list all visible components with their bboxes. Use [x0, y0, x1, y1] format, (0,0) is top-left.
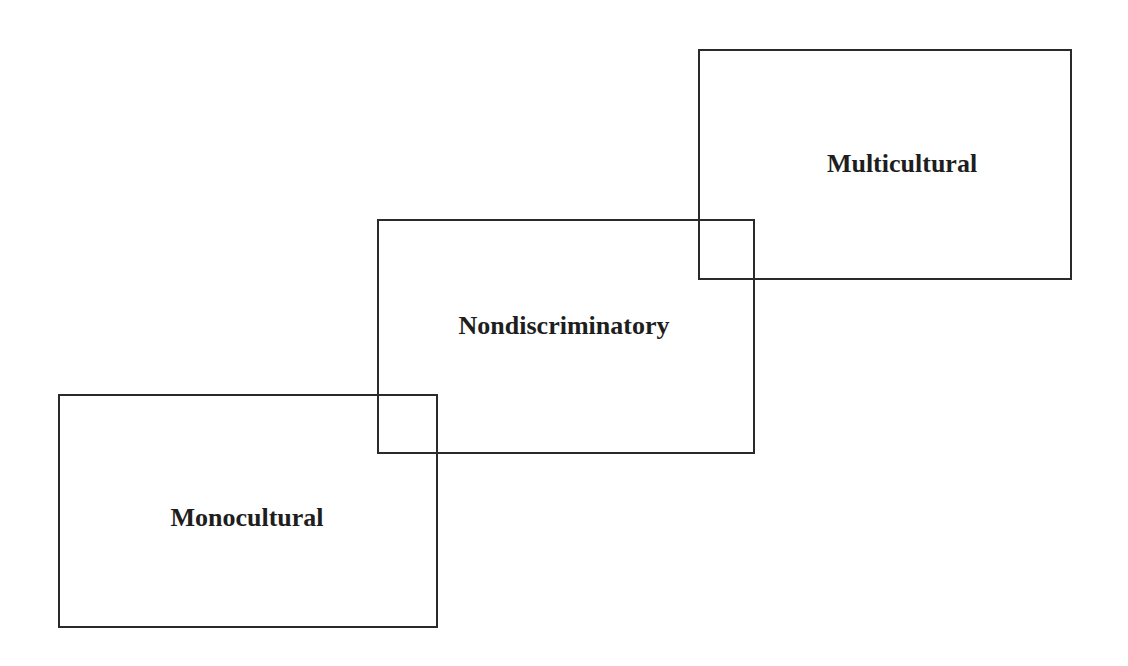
label-nondiscriminatory: Nondiscriminatory: [459, 313, 670, 339]
label-monocultural: Monocultural: [170, 505, 323, 531]
label-multicultural: Multicultural: [827, 151, 977, 177]
